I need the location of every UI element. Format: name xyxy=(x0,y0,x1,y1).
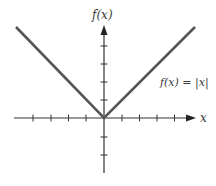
y-axis-label: f(x) xyxy=(91,8,113,22)
abs-function-curve xyxy=(16,27,195,118)
x-axis-label: x xyxy=(200,111,207,125)
graph: f(x) x f(x) = |x| xyxy=(0,0,216,186)
function-label: f(x) = |x| xyxy=(159,76,209,90)
x-axis-arrow-icon xyxy=(186,115,196,122)
y-axis-arrow-icon xyxy=(101,25,108,35)
